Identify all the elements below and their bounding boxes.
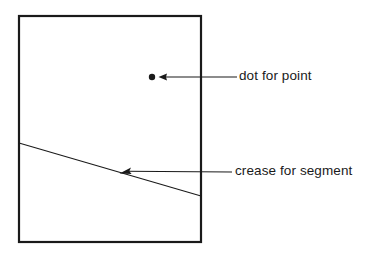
diagram-svg [0, 0, 386, 256]
point-dot [149, 74, 155, 80]
figure-canvas: dot for point crease for segment [0, 0, 386, 256]
crease-line [19, 143, 201, 196]
dot-for-point-arrowhead-icon [159, 74, 168, 81]
annotation-label-dot-for-point: dot for point [239, 69, 312, 83]
dot-for-point-leader-group [159, 74, 238, 81]
annotation-label-crease-for-segment: crease for segment [235, 164, 352, 178]
paper-sheet-rectangle [19, 16, 201, 242]
crease-for-segment-leader-line [126, 171, 232, 172]
crease-for-segment-leader-group [120, 168, 233, 175]
